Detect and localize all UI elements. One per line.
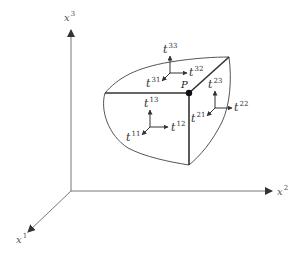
t12-sup: 12 — [176, 120, 185, 128]
t31-label: t31 — [146, 77, 160, 89]
t11-label: t11 — [126, 131, 140, 143]
t33-label: t33 — [163, 43, 177, 55]
t23-label: t23 — [208, 78, 222, 90]
point-p-label: P — [181, 80, 188, 90]
t12-label: t12 — [171, 121, 185, 133]
t32-base: t — [189, 66, 193, 79]
front-face-arrows — [142, 110, 168, 135]
t13-sup: 13 — [149, 96, 158, 104]
x3-base: x — [64, 12, 70, 23]
t22-label: t22 — [234, 101, 248, 113]
t32-label: t32 — [189, 66, 203, 78]
t12-base: t — [171, 121, 175, 134]
t22-sup: 22 — [239, 100, 248, 108]
t11-sup: 11 — [131, 130, 140, 138]
t13-label: t13 — [144, 97, 158, 109]
x2-sup: 2 — [284, 184, 288, 192]
cube-edges — [105, 57, 229, 165]
t21-base: t — [191, 112, 195, 125]
x1-sup: 1 — [23, 232, 27, 240]
coordinate-axes — [28, 30, 272, 232]
t31-base: t — [146, 77, 150, 90]
x3-sup: 3 — [71, 10, 75, 18]
x2-axis-label: x2 — [277, 185, 288, 197]
t33-base: t — [163, 43, 167, 56]
stress-tensor-diagram — [0, 0, 300, 257]
t13-base: t — [144, 97, 148, 110]
t31-arrow — [162, 73, 170, 81]
point-p-marker — [186, 90, 192, 96]
t21-arrow — [207, 108, 215, 116]
x2-base: x — [277, 186, 283, 197]
t23-sup: 23 — [213, 77, 222, 85]
x1-axis — [28, 191, 71, 232]
t32-sup: 32 — [194, 65, 203, 73]
t21-sup: 21 — [196, 111, 205, 119]
t33-sup: 33 — [168, 42, 177, 50]
t21-label: t21 — [191, 112, 205, 124]
t31-sup: 31 — [151, 76, 160, 84]
t11-arrow — [142, 127, 150, 135]
t22-base: t — [234, 101, 238, 114]
x3-axis-label: x3 — [64, 11, 75, 23]
x1-axis-label: x1 — [16, 233, 27, 245]
x1-base: x — [16, 234, 22, 245]
t23-base: t — [208, 78, 212, 91]
t11-base: t — [126, 131, 130, 144]
